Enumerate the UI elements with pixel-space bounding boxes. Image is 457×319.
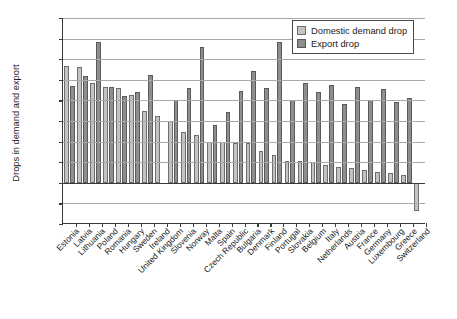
legend-item-domestic: Domestic demand drop <box>297 24 407 37</box>
bar <box>122 96 127 183</box>
y-tick-mark <box>59 39 63 40</box>
bar <box>342 104 347 183</box>
bar <box>375 172 380 183</box>
bar <box>381 89 386 183</box>
bar <box>168 121 173 183</box>
bar <box>90 83 95 183</box>
bar <box>135 92 140 183</box>
bar <box>272 155 277 183</box>
bar <box>64 66 69 183</box>
y-tick-mark <box>59 100 63 101</box>
bar <box>226 112 231 182</box>
y-tick-mark <box>59 121 63 122</box>
bar <box>285 161 290 183</box>
legend-swatch-domestic <box>297 26 306 35</box>
gridline <box>63 142 425 143</box>
bar-chart: Drops in demand and export 0.400.350.300… <box>0 0 457 319</box>
gridline <box>63 121 425 122</box>
bar <box>264 88 269 183</box>
bar <box>148 75 153 183</box>
bar <box>83 76 88 183</box>
y-axis-title: Drops in demand and export <box>11 23 21 223</box>
gridline <box>63 59 425 60</box>
bar <box>336 167 341 183</box>
bar <box>103 87 108 183</box>
legend-label-export: Export drop <box>311 39 359 49</box>
y-tick-mark <box>59 162 63 163</box>
y-tick-mark <box>59 59 63 60</box>
bar <box>77 67 82 183</box>
bar <box>109 87 114 183</box>
bar <box>298 161 303 183</box>
legend-label-domestic: Domestic demand drop <box>311 26 407 36</box>
bar <box>187 88 192 183</box>
bar <box>355 87 360 183</box>
y-tick-mark <box>59 18 63 19</box>
zero-line <box>63 183 425 184</box>
bar <box>303 83 308 183</box>
bar <box>323 165 328 183</box>
gridline <box>63 100 425 101</box>
y-tick-mark <box>59 203 63 204</box>
bar <box>407 98 412 182</box>
bar <box>414 183 419 211</box>
gridline <box>63 162 425 163</box>
bar <box>251 71 256 183</box>
gridline <box>63 18 425 19</box>
y-tick-mark <box>59 142 63 143</box>
bar <box>116 88 121 182</box>
bar <box>388 173 393 182</box>
bar <box>401 175 406 182</box>
bar <box>316 92 321 183</box>
bar <box>362 170 367 183</box>
bar <box>213 125 218 183</box>
legend-swatch-export <box>297 39 306 48</box>
bar <box>181 132 186 183</box>
gridline <box>63 203 425 204</box>
x-axis-labels: EstoniaLatviaLithuaniaPolandRomaniaHunga… <box>62 226 425 318</box>
y-tick-mark <box>59 183 63 184</box>
y-tick-mark <box>59 224 63 225</box>
legend-item-export: Export drop <box>297 37 407 50</box>
bar <box>129 95 134 183</box>
bar <box>259 151 264 182</box>
gridline <box>63 80 425 81</box>
bar <box>155 116 160 182</box>
bar <box>239 91 244 182</box>
bar <box>311 162 316 183</box>
legend: Domestic demand drop Export drop <box>292 20 414 54</box>
bar <box>349 168 354 182</box>
y-tick-mark <box>59 80 63 81</box>
